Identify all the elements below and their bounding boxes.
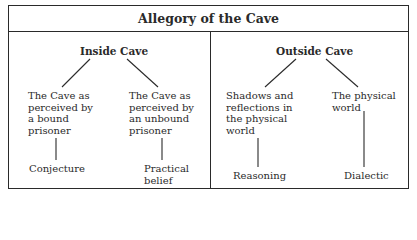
section-heading-outside-cave: Outside Cave <box>276 46 353 58</box>
node-shadows-reflections: Shadows and reflections in the physical … <box>226 90 293 136</box>
node-bound-prisoner: The Cave as perceived by a bound prisone… <box>28 90 93 136</box>
node-unbound-prisoner: The Cave as perceived by an unbound pris… <box>129 90 194 136</box>
connector-inside-left <box>62 59 90 87</box>
connector-outside-right <box>326 59 358 87</box>
node-reasoning: Reasoning <box>233 170 286 182</box>
node-conjecture: Conjecture <box>29 163 85 175</box>
section-heading-inside-cave: Inside Cave <box>80 46 148 58</box>
node-physical-world: The physical world <box>332 90 396 113</box>
connector-outside-left <box>265 59 296 87</box>
node-practical-belief: Practical belief <box>144 163 189 186</box>
node-dialectic: Dialectic <box>344 170 389 182</box>
connector-inside-right <box>127 59 158 87</box>
